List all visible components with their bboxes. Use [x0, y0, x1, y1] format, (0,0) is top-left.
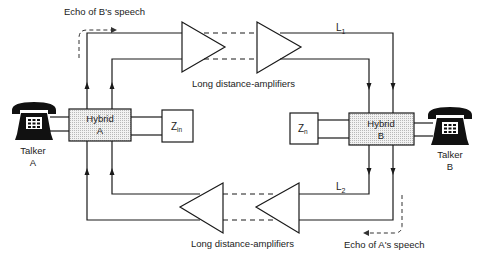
- talker-a-label: Talker: [20, 145, 45, 156]
- telephone-icon: [428, 107, 472, 145]
- top-outer-line: [87, 33, 182, 109]
- hybrid-a-label: Hybrid: [86, 113, 113, 124]
- echo-b-arrowhead: [111, 27, 117, 33]
- echo-a-arrowhead: [363, 230, 369, 236]
- amps-top-label: Long distance-amplifiers: [192, 78, 295, 89]
- amplifier-bottom-2: [256, 183, 299, 233]
- amps-bottom-label: Long distance-amplifiers: [191, 238, 294, 249]
- talker-a-letter: A: [30, 157, 37, 168]
- echo-circuit-diagram: Echo of B's speech Long distance-amplifi…: [0, 0, 482, 258]
- hybrid-b-letter: B: [378, 130, 384, 141]
- bottom-inner-right-line: [299, 145, 369, 194]
- amplifier-bottom-1: [180, 183, 223, 233]
- telephone-icon: [12, 102, 56, 140]
- l2-label: L2: [336, 181, 346, 194]
- amplifier-top-2: [257, 22, 301, 73]
- arrow-up-inner-bottom-left: [110, 168, 115, 175]
- arrow-down-outer-right: [391, 83, 396, 90]
- echo-a-path: [368, 195, 402, 233]
- bottom-inner-left-line: [112, 141, 200, 194]
- arrow-down-outer-bottom: [391, 168, 396, 175]
- echo-b-path: [79, 30, 112, 58]
- arrow-up-outer-left: [85, 82, 90, 89]
- arrow-down-inner-right: [367, 83, 372, 90]
- top-inner-line: [112, 59, 182, 109]
- talker-b-letter: B: [447, 161, 453, 172]
- echo-a-label: Echo of A's speech: [344, 239, 425, 250]
- echo-b-label: Echo of B's speech: [64, 6, 145, 17]
- talker-b-label: Talker: [437, 149, 462, 160]
- hybrid-a-letter: A: [97, 125, 104, 136]
- arrow-up-inner-left: [110, 82, 115, 89]
- arrow-up-outer-bottom-left: [85, 168, 90, 175]
- bottom-outer-right-line: [299, 145, 393, 220]
- arrow-down-inner-bottom: [367, 168, 372, 175]
- hybrid-b-label: Hybrid: [367, 118, 394, 129]
- amplifier-top-1: [182, 22, 225, 72]
